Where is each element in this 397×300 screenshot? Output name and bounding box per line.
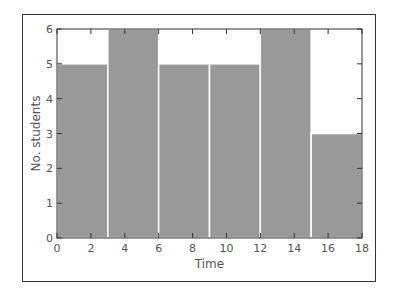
x-axis-label: Time	[194, 257, 224, 271]
y-tick-label: 2	[46, 162, 53, 175]
y-tick-label: 3	[46, 128, 53, 141]
y-tick-label: 1	[46, 197, 53, 210]
y-tick-label: 0	[46, 232, 53, 245]
histogram-chart: 024681012141618 0123456 Time No. student…	[0, 0, 397, 300]
x-tick-label: 14	[287, 242, 301, 255]
histogram-bar	[108, 29, 159, 238]
x-tick-label: 4	[121, 242, 128, 255]
bars-group	[57, 29, 362, 238]
histogram-bar	[260, 29, 311, 238]
x-tick-label: 8	[189, 242, 196, 255]
y-tick-label: 5	[46, 58, 53, 71]
x-tick-label: 12	[253, 242, 267, 255]
x-tick-label: 0	[54, 242, 61, 255]
x-tick-label: 6	[155, 242, 162, 255]
x-tick-label: 16	[321, 242, 335, 255]
x-tick-label: 10	[219, 242, 233, 255]
histogram-bar	[57, 64, 108, 238]
x-tick-label: 2	[87, 242, 94, 255]
histogram-bar	[159, 64, 210, 238]
y-tick-label: 6	[46, 23, 53, 36]
histogram-bar	[210, 64, 261, 238]
y-tick-label: 4	[46, 93, 53, 106]
x-tick-label: 18	[355, 242, 369, 255]
histogram-bar	[311, 134, 362, 239]
y-axis-label: No. students	[29, 96, 43, 172]
